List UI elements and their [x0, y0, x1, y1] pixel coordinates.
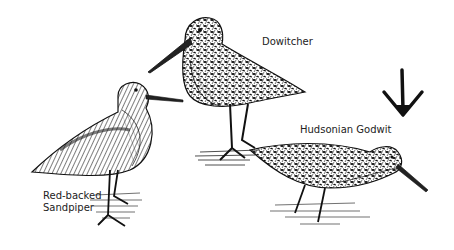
sandpiper-label-line1: Red-backed [43, 190, 102, 202]
godwit-bird [250, 144, 428, 225]
sandpiper-label-line2: Sandpiper [43, 202, 102, 214]
dowitcher-label: Dowitcher [262, 36, 313, 48]
sandpiper-label: Red-backed Sandpiper [43, 190, 102, 214]
bird-footprint-icon [384, 70, 422, 117]
godwit-label: Hudsonian Godwit [300, 124, 391, 136]
shorebird-illustration: Dowitcher Hudsonian Godwit Red-backed Sa… [0, 0, 454, 250]
